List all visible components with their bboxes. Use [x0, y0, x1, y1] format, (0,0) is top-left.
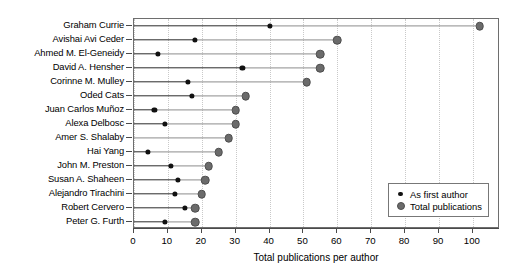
x-tick-70 [370, 228, 371, 233]
segment-first-author [134, 123, 165, 124]
x-tick-label-80: 80 [399, 235, 410, 246]
y-tick-8 [126, 137, 132, 138]
point-total-publications [214, 148, 223, 157]
x-tick-label-100: 100 [464, 235, 480, 246]
x-tick-label-10: 10 [162, 235, 173, 246]
x-tick-label-90: 90 [433, 235, 444, 246]
segment-first-author [134, 179, 178, 180]
x-tick-label-30: 30 [229, 235, 240, 246]
y-axis-label-9: Hai Yang [87, 146, 124, 156]
y-tick-1 [126, 39, 132, 40]
y-tick-7 [126, 123, 132, 124]
segment-first-author [134, 165, 171, 166]
legend-item-total-publications: Total publications [394, 200, 482, 212]
y-tick-5 [126, 95, 132, 96]
gridline-x-50 [303, 19, 305, 227]
point-first-author [152, 107, 157, 112]
segment-total-publications [158, 53, 321, 54]
point-first-author [182, 205, 187, 210]
x-tick-40 [269, 228, 270, 233]
y-axis-label-0: Graham Currie [63, 20, 124, 30]
segment-total-publications [154, 109, 235, 110]
chart-legend: As first author Total publications [388, 183, 489, 217]
segment-first-author [134, 39, 195, 40]
y-axis-label-11: Susan A. Shaheen [48, 174, 124, 184]
point-total-publications [191, 204, 200, 213]
x-tick-label-70: 70 [365, 235, 376, 246]
x-axis-title: Total publications per author [133, 252, 499, 263]
point-total-publications [191, 218, 200, 227]
publications-per-author-chart: Graham CurrieAvishai Avi CederAhmed M. E… [0, 0, 514, 274]
x-tick-0 [133, 228, 134, 233]
y-axis-label-14: Peter G. Furth [66, 216, 124, 226]
segment-total-publications [195, 39, 337, 40]
point-total-publications [303, 78, 312, 87]
segment-first-author [134, 193, 175, 194]
y-tick-14 [126, 221, 132, 222]
point-total-publications [316, 50, 325, 59]
point-first-author [189, 93, 194, 98]
x-tick-label-40: 40 [263, 235, 274, 246]
x-tick-20 [201, 228, 202, 233]
x-tick-label-50: 50 [297, 235, 308, 246]
gridline-x-40 [270, 19, 272, 227]
segment-total-publications [165, 123, 236, 124]
x-tick-90 [438, 228, 439, 233]
x-tick-label-0: 0 [130, 235, 135, 246]
y-axis-label-3: David A. Hensher [53, 62, 124, 72]
y-axis-label-13: Robert Cervero [61, 202, 124, 212]
segment-total-publications [192, 95, 246, 96]
x-tick-100 [472, 228, 473, 233]
point-first-author [175, 177, 180, 182]
segment-first-author [134, 207, 185, 208]
y-tick-13 [126, 207, 132, 208]
y-axis-label-1: Avishai Avi Ceder [53, 34, 124, 44]
x-tick-10 [167, 228, 168, 233]
y-tick-9 [126, 151, 132, 152]
y-tick-4 [126, 81, 132, 82]
x-tick-label-20: 20 [195, 235, 206, 246]
point-first-author [186, 79, 191, 84]
segment-first-author [134, 81, 188, 82]
point-total-publications [316, 64, 325, 73]
segment-total-publications [188, 81, 307, 82]
y-tick-12 [126, 193, 132, 194]
segment-first-author [134, 221, 165, 222]
gridline-x-70 [371, 19, 373, 227]
x-tick-50 [302, 228, 303, 233]
y-tick-2 [126, 53, 132, 54]
point-total-publications [333, 36, 342, 45]
x-axis: 0102030405060708090100 [133, 228, 499, 236]
y-tick-11 [126, 179, 132, 180]
legend-marker-total-publications-icon [394, 202, 407, 210]
segment-total-publications [134, 137, 229, 138]
y-axis-labels: Graham CurrieAvishai Avi CederAhmed M. E… [0, 18, 133, 228]
y-axis-label-6: Juan Carlos Muñoz [45, 104, 124, 114]
segment-first-author [134, 95, 192, 96]
segment-total-publications [148, 151, 219, 152]
point-total-publications [475, 22, 484, 31]
point-first-author [192, 37, 197, 42]
x-tick-60 [336, 228, 337, 233]
legend-label-total-publications: Total publications [410, 201, 482, 212]
x-tick-label-60: 60 [331, 235, 342, 246]
x-tick-80 [404, 228, 405, 233]
point-first-author [162, 121, 167, 126]
point-total-publications [231, 120, 240, 129]
y-tick-10 [126, 165, 132, 166]
point-total-publications [197, 190, 206, 199]
point-first-author [172, 191, 177, 196]
point-first-author [240, 65, 245, 70]
point-total-publications [231, 106, 240, 115]
segment-first-author [134, 25, 270, 26]
y-axis-label-5: Oded Cats [80, 90, 124, 100]
y-axis-label-12: Alejandro Tirachini [49, 188, 124, 198]
y-axis-label-2: Ahmed M. El-Geneidy [34, 48, 124, 58]
point-total-publications [201, 176, 210, 185]
point-first-author [162, 219, 167, 224]
y-tick-3 [126, 67, 132, 68]
x-axis-line [133, 228, 499, 229]
y-tick-0 [126, 25, 132, 26]
segment-total-publications [270, 25, 480, 26]
legend-label-first-author: As first author [410, 189, 468, 200]
